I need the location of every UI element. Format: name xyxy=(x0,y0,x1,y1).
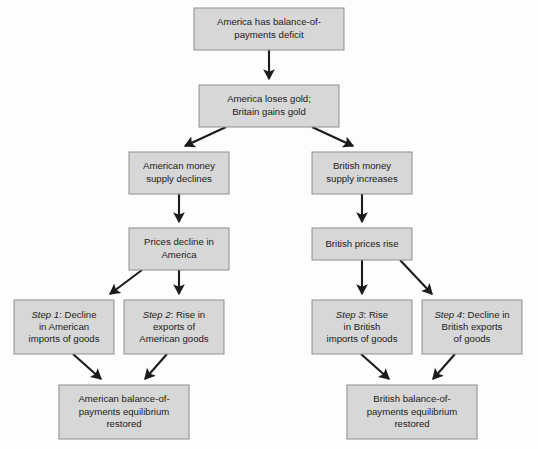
edge-step4-to-uk-equilibrium xyxy=(433,354,455,379)
step-3-british-imports-line-3: imports of goods xyxy=(327,333,398,344)
step-4-british-exports-line-3: of goods xyxy=(454,333,491,344)
step-4-british-exports-line-1: Step 4: Decline in xyxy=(434,308,509,319)
british-prices-rise-line-1: British prices rise xyxy=(325,238,398,249)
step-2-american-exports-line-1: Step 2: Rise in xyxy=(143,308,205,319)
step-2-american-exports-line-2: exports of xyxy=(153,321,195,332)
gold-flow-line-2: Britain gains gold xyxy=(232,106,306,117)
edge-uk-prices-to-step4 xyxy=(400,260,432,294)
american-money-supply-line-2: supply declines xyxy=(146,173,212,184)
british-prices-rise[interactable]: British prices rise xyxy=(312,228,412,260)
step-1-american-imports-line-2: in American xyxy=(39,321,89,332)
gold-flow-line-1: America loses gold; xyxy=(227,93,311,104)
british-money-supply-line-2: supply increases xyxy=(326,173,398,184)
british-money-supply[interactable]: British moneysupply increases xyxy=(312,152,412,194)
american-equilibrium-restored[interactable]: American balance-of-payments equilibrium… xyxy=(59,385,189,439)
step-4-british-exports[interactable]: Step 4: Decline inBritish exportsof good… xyxy=(422,300,522,354)
american-equilibrium-restored-line-1: American balance-of- xyxy=(78,393,169,404)
edge-step3-to-uk-equilibrium xyxy=(361,354,389,379)
step-4-british-exports-step-label: Step 4 xyxy=(434,308,462,319)
step-3-british-imports[interactable]: Step 3: Risein Britishimports of goods xyxy=(312,300,412,354)
step-1-american-imports-line-3: imports of goods xyxy=(29,333,100,344)
american-money-supply[interactable]: American moneysupply declines xyxy=(129,152,229,194)
step-3-british-imports-step-label: Step 3 xyxy=(336,308,364,319)
step-2-american-exports[interactable]: Step 2: Rise inexports ofAmerican goods xyxy=(124,300,224,354)
edge-gold-to-us-money xyxy=(185,127,226,146)
american-money-supply-line-1: American money xyxy=(143,160,215,171)
america-deficit-line-1: America has balance-of- xyxy=(217,16,321,27)
edge-us-prices-to-step1 xyxy=(110,270,142,294)
flowchart-container: America has balance-of-payments deficitA… xyxy=(0,0,538,449)
flowchart-canvas: America has balance-of-payments deficitA… xyxy=(0,0,538,449)
step-1-american-imports-line-1: Step 1: Decline xyxy=(31,308,96,319)
american-equilibrium-restored-line-3: restored xyxy=(106,418,141,429)
american-prices-decline-line-2: America xyxy=(161,249,197,260)
america-deficit[interactable]: America has balance-of-payments deficit xyxy=(194,8,344,50)
british-money-supply-line-1: British money xyxy=(333,160,391,171)
step-2-american-exports-step-label: Step 2 xyxy=(143,308,171,319)
step-3-british-imports-line-1: Step 3: Rise xyxy=(336,308,388,319)
gold-flow[interactable]: America loses gold;Britain gains gold xyxy=(199,85,339,127)
america-deficit-line-2: payments deficit xyxy=(234,29,304,40)
american-prices-decline[interactable]: Prices decline inAmerica xyxy=(129,228,229,270)
step-4-british-exports-line-2: British exports xyxy=(442,321,503,332)
edge-step2-to-us-equilibrium xyxy=(145,354,167,379)
edge-step1-to-us-equilibrium xyxy=(73,354,101,379)
british-equilibrium-restored[interactable]: British balance-of-payments equilibriumr… xyxy=(347,385,477,439)
step-1-american-imports[interactable]: Step 1: Declinein Americanimports of goo… xyxy=(14,300,114,354)
step-1-american-imports-step-label: Step 1 xyxy=(31,308,59,319)
american-equilibrium-restored-line-2: payments equilibrium xyxy=(79,406,170,417)
step-2-american-exports-line-3: American goods xyxy=(139,333,209,344)
edge-gold-to-uk-money xyxy=(312,127,353,146)
british-equilibrium-restored-line-2: payments equilibrium xyxy=(367,406,458,417)
step-3-british-imports-line-2: in British xyxy=(344,321,381,332)
british-equilibrium-restored-line-1: British balance-of- xyxy=(373,393,450,404)
british-equilibrium-restored-line-3: restored xyxy=(394,418,429,429)
american-prices-decline-line-1: Prices decline in xyxy=(144,236,214,247)
